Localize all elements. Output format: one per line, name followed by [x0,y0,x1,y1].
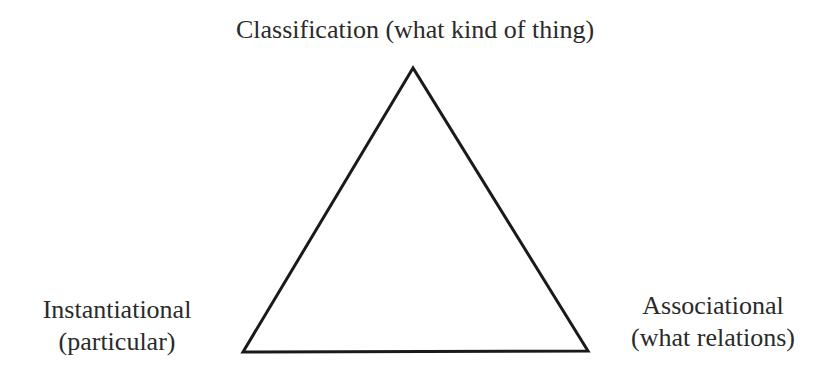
instantiational-sublabel: (particular) [12,326,222,358]
triangle-diagram: Classification (what kind of thing) Inst… [0,0,829,392]
associational-label: Associational [608,290,818,322]
vertex-label-instantiational: Instantiational (particular) [12,294,222,358]
associational-sublabel: (what relations) [608,322,818,354]
triangle-outline [243,68,588,352]
vertex-label-classification: Classification (what kind of thing) [190,14,640,46]
classification-label: Classification (what kind of thing) [190,14,640,46]
vertex-label-associational: Associational (what relations) [608,290,818,354]
instantiational-label: Instantiational [12,294,222,326]
